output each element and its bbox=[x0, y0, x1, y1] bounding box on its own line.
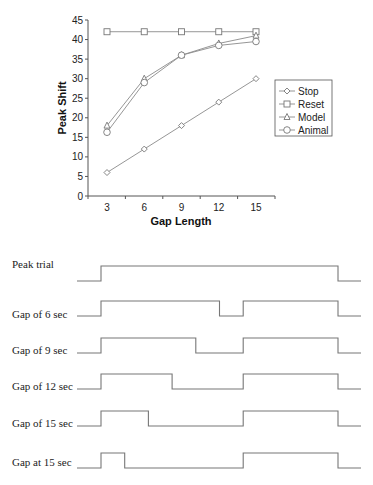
timing-row: Gap of 12 sec bbox=[12, 374, 361, 392]
circle-marker bbox=[253, 38, 260, 45]
y-tick-label: 45 bbox=[72, 15, 84, 26]
x-tick-label: 12 bbox=[213, 202, 225, 213]
x-tick-label: 15 bbox=[250, 202, 262, 213]
circle-marker bbox=[104, 129, 111, 136]
x-axis-title: Gap Length bbox=[150, 215, 211, 227]
square-marker bbox=[179, 29, 185, 35]
circle-marker bbox=[141, 79, 148, 86]
timing-row-label: Peak trial bbox=[12, 258, 54, 270]
y-tick-label: 30 bbox=[72, 73, 84, 84]
x-tick-label: 3 bbox=[104, 202, 110, 213]
timing-row: Gap of 15 sec bbox=[12, 411, 361, 429]
series-animal bbox=[104, 38, 260, 135]
series-reset bbox=[104, 29, 259, 35]
timing-signal bbox=[77, 411, 361, 426]
timing-signal bbox=[77, 374, 361, 389]
diamond-marker bbox=[179, 123, 185, 129]
diamond-marker bbox=[104, 170, 110, 176]
y-tick-label: 40 bbox=[72, 34, 84, 45]
timing-diagram: Peak trialGap of 6 secGap of 9 secGap of… bbox=[12, 258, 361, 468]
series-model bbox=[104, 32, 259, 128]
series-layer bbox=[104, 29, 260, 176]
circle-marker bbox=[215, 42, 222, 49]
legend-label: Model bbox=[298, 112, 325, 123]
timing-row: Gap at 15 sec bbox=[12, 453, 361, 468]
y-tick-label: 5 bbox=[77, 171, 83, 182]
y-tick-label: 10 bbox=[72, 151, 84, 162]
y-tick-label: 20 bbox=[72, 112, 84, 123]
timing-row-label: Gap at 15 sec bbox=[12, 456, 72, 468]
legend-label: Reset bbox=[298, 99, 324, 110]
square-marker bbox=[141, 29, 147, 35]
timing-signal bbox=[77, 301, 361, 316]
series-stop bbox=[104, 76, 259, 176]
line-chart: 051015202530354045 3691215 Peak Shift Ga… bbox=[56, 15, 332, 228]
square-marker bbox=[284, 101, 290, 107]
square-marker bbox=[216, 29, 222, 35]
x-tick-label: 6 bbox=[141, 202, 147, 213]
square-marker bbox=[104, 29, 110, 35]
legend-label: Animal bbox=[298, 125, 329, 136]
timing-row: Peak trial bbox=[12, 258, 361, 281]
timing-row: Gap of 9 sec bbox=[12, 338, 361, 356]
y-tick-label: 0 bbox=[77, 191, 83, 202]
timing-row-label: Gap of 15 sec bbox=[12, 417, 73, 429]
x-tick-label: 9 bbox=[179, 202, 185, 213]
timing-row-label: Gap of 6 sec bbox=[12, 308, 67, 320]
figure: 051015202530354045 3691215 Peak Shift Ga… bbox=[0, 0, 373, 485]
diamond-marker bbox=[216, 99, 222, 105]
diamond-marker bbox=[253, 76, 259, 82]
legend: StopResetModelAnimal bbox=[275, 80, 332, 136]
timing-signal bbox=[77, 338, 361, 353]
y-axis: 051015202530354045 bbox=[72, 15, 88, 202]
diamond-marker bbox=[141, 146, 147, 152]
x-axis: 3691215 bbox=[88, 196, 275, 213]
y-tick-label: 35 bbox=[72, 54, 84, 65]
timing-signal bbox=[77, 453, 361, 468]
timing-row: Gap of 6 sec bbox=[12, 301, 361, 320]
timing-row-label: Gap of 12 sec bbox=[12, 380, 73, 392]
legend-label: Stop bbox=[298, 86, 319, 97]
circle-marker bbox=[284, 127, 291, 134]
timing-signal bbox=[77, 266, 361, 281]
circle-marker bbox=[178, 52, 185, 59]
y-axis-title: Peak Shift bbox=[56, 81, 68, 135]
timing-row-label: Gap of 9 sec bbox=[12, 344, 67, 356]
y-tick-label: 15 bbox=[72, 132, 84, 143]
y-tick-label: 25 bbox=[72, 93, 84, 104]
